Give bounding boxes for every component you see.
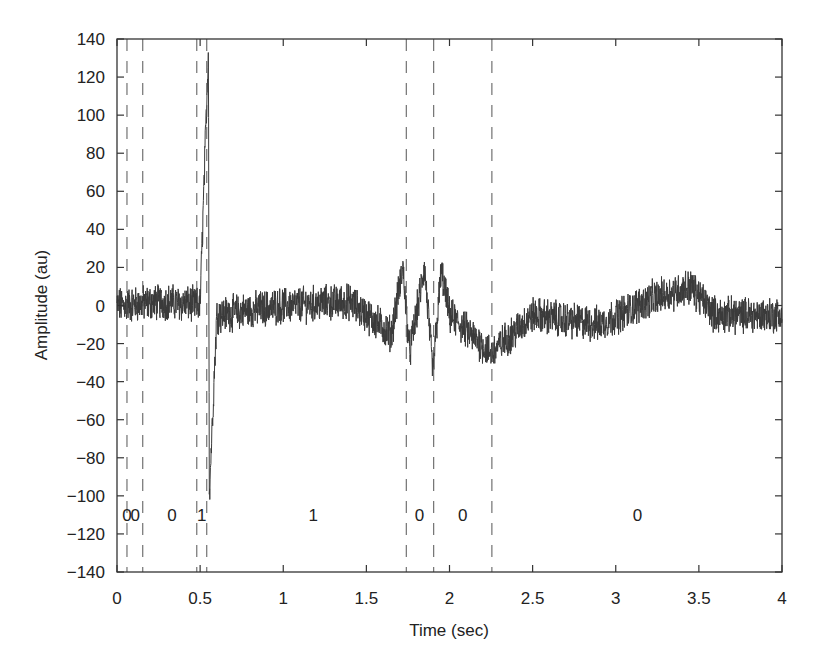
y-tick-label: 120	[77, 68, 105, 87]
segment-label: 0	[131, 506, 140, 525]
segment-label: 0	[167, 506, 176, 525]
segment-label: 0	[633, 506, 642, 525]
y-tick-label: −80	[76, 449, 105, 468]
x-tick-label: 0.5	[188, 589, 212, 608]
y-tick-label: 140	[77, 30, 105, 49]
y-tick-label: −120	[67, 525, 105, 544]
x-tick-label: 1	[279, 589, 288, 608]
x-tick-label: 4	[777, 589, 786, 608]
segment-label: 1	[197, 506, 206, 525]
y-tick-label: 20	[86, 258, 105, 277]
y-tick-label: 0	[96, 297, 105, 316]
y-tick-label: −60	[76, 411, 105, 430]
y-tick-label: −40	[76, 373, 105, 392]
segment-label: 1	[308, 506, 317, 525]
y-axis-label: Amplitude (au)	[32, 250, 51, 361]
x-tick-label: 2.5	[521, 589, 545, 608]
x-axis-label: Time (sec)	[409, 621, 489, 640]
y-tick-label: 100	[77, 106, 105, 125]
x-tick-label: 1.5	[355, 589, 379, 608]
y-tick-label: 80	[86, 144, 105, 163]
signal-line	[117, 53, 782, 500]
y-tick-label: −20	[76, 335, 105, 354]
x-tick-label: 3	[611, 589, 620, 608]
y-tick-label: −140	[67, 563, 105, 582]
segment-labels: 00011000	[122, 506, 642, 525]
segment-label: 0	[458, 506, 467, 525]
chart: 00011000 00.511.522.533.54 1401201008060…	[0, 0, 819, 668]
y-tick-label: 60	[86, 182, 105, 201]
y-tick-label: 40	[86, 220, 105, 239]
x-tick-label: 2	[445, 589, 454, 608]
x-tick-label: 0	[112, 589, 121, 608]
segment-label: 0	[415, 506, 424, 525]
x-tick-label: 3.5	[687, 589, 711, 608]
x-tick-labels: 00.511.522.533.54	[112, 589, 786, 608]
y-tick-label: −100	[67, 487, 105, 506]
y-tick-labels: 140120100806040200−20−40−60−80−100−120−1…	[67, 30, 105, 582]
